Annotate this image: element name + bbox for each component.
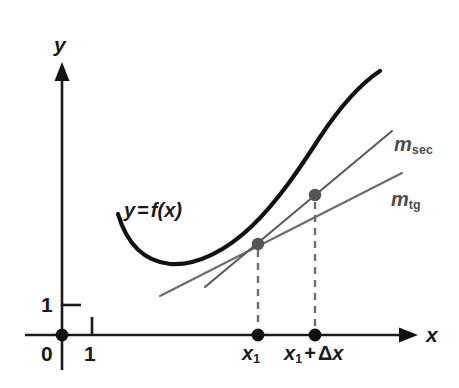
x1-subscript: 1 (253, 352, 260, 366)
x1dx-operator: + (302, 342, 318, 364)
x1dx-variable: x (332, 342, 343, 364)
x1-tick-label: x1 (242, 343, 260, 363)
x1dx-subscript: 1 (295, 352, 302, 366)
function-curve (118, 71, 380, 264)
secant-line (205, 131, 392, 287)
secant-slope-base: m (394, 133, 412, 155)
origin-dot (56, 329, 69, 342)
x1-plus-delta-x-tick-label: x1+Δx (284, 343, 343, 363)
x-axis-arrowhead (399, 328, 418, 343)
y-axis-group (55, 62, 82, 370)
secant-slope-subscript: sec (412, 143, 433, 157)
x-axis-group (25, 317, 418, 343)
tangent-slope-base: m (391, 188, 409, 210)
tangent-slope-label: mtg (391, 189, 421, 209)
point-at-x1-plus-delta-x-marker (309, 189, 321, 201)
y-unit-tick-label: 1 (41, 294, 53, 315)
y-axis-label: y (54, 34, 66, 55)
function-label-fx: f(x) (151, 199, 182, 221)
origin-label: 0 (41, 343, 53, 364)
function-label-y: y (124, 199, 135, 221)
tangent-slope-subscript: tg (409, 198, 421, 212)
x-axis-label: x (426, 324, 438, 345)
axis-dot-x1 (252, 329, 265, 342)
delta-symbol: Δ (318, 342, 332, 364)
point-at-x1-marker (252, 238, 264, 250)
x-unit-tick-label: 1 (84, 343, 96, 364)
derivative-secant-tangent-figure: y x 0 1 1 y=f(x) msec mtg x1 x1+Δx (0, 0, 459, 388)
axis-dot-x1-plus-delta-x (309, 329, 322, 342)
x1-base: x (242, 342, 253, 364)
x1dx-base: x (284, 342, 295, 364)
function-label-equals: = (135, 199, 151, 221)
function-curve-label: y=f(x) (124, 200, 182, 220)
y-axis-arrowhead (55, 62, 70, 81)
secant-slope-label: msec (394, 134, 433, 154)
